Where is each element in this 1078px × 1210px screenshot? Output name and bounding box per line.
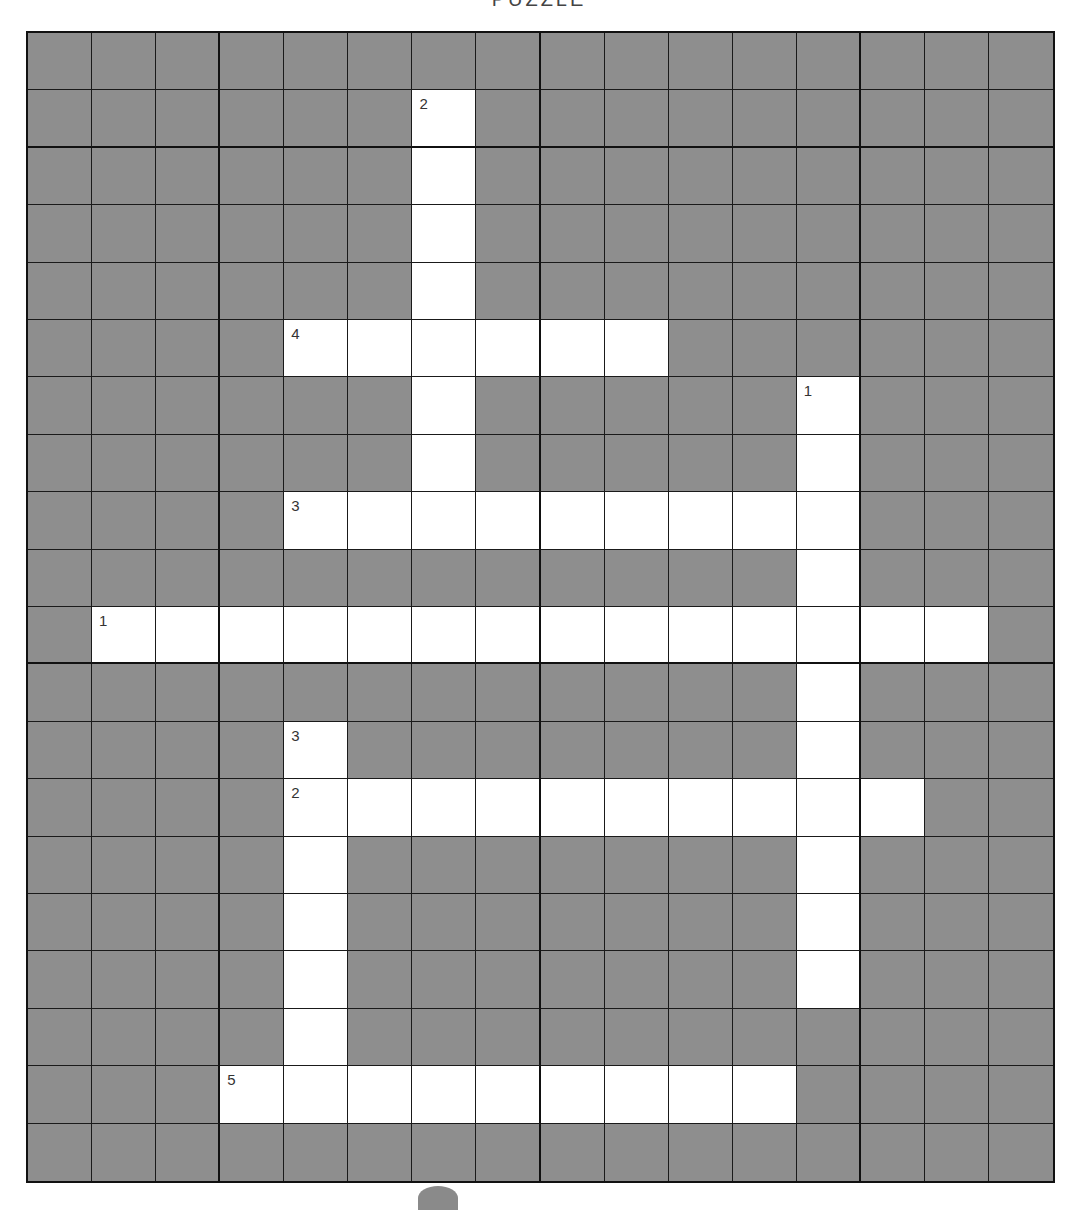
crossword-cell[interactable] xyxy=(348,492,412,549)
blocked-cell xyxy=(28,607,92,664)
crossword-cell[interactable] xyxy=(733,492,797,549)
crossword-cell[interactable] xyxy=(797,722,861,779)
crossword-cell[interactable]: 1 xyxy=(797,377,861,434)
crossword-cell[interactable] xyxy=(412,435,476,492)
crossword-cell[interactable] xyxy=(412,1066,476,1123)
crossword-cell[interactable] xyxy=(797,664,861,721)
blocked-cell xyxy=(925,951,989,1008)
crossword-cell[interactable]: 2 xyxy=(412,90,476,147)
crossword-cell[interactable] xyxy=(412,377,476,434)
crossword-cell[interactable] xyxy=(797,435,861,492)
blocked-cell xyxy=(156,1009,220,1066)
crossword-cell[interactable] xyxy=(348,320,412,377)
blocked-cell xyxy=(605,550,669,607)
crossword-cell[interactable] xyxy=(861,779,925,836)
crossword-cell[interactable] xyxy=(284,894,348,951)
crossword-cell[interactable] xyxy=(797,607,861,664)
blocked-cell xyxy=(348,1009,412,1066)
crossword-cell[interactable] xyxy=(669,607,733,664)
crossword-cell[interactable] xyxy=(220,607,284,664)
crossword-cell[interactable] xyxy=(541,1066,605,1123)
crossword-cell[interactable] xyxy=(797,492,861,549)
crossword-cell[interactable] xyxy=(605,607,669,664)
blocked-cell xyxy=(861,951,925,1008)
crossword-cell[interactable]: 3 xyxy=(284,722,348,779)
crossword-cell[interactable] xyxy=(284,837,348,894)
blocked-cell xyxy=(284,148,348,205)
crossword-cell[interactable] xyxy=(733,607,797,664)
crossword-cell[interactable] xyxy=(412,320,476,377)
blocked-cell xyxy=(861,320,925,377)
blocked-cell xyxy=(733,148,797,205)
blocked-cell xyxy=(92,951,156,1008)
crossword-cell[interactable] xyxy=(476,1066,540,1123)
blocked-cell xyxy=(92,894,156,951)
blocked-cell xyxy=(156,205,220,262)
crossword-cell[interactable] xyxy=(669,492,733,549)
blocked-cell xyxy=(92,377,156,434)
crossword-cell[interactable] xyxy=(412,492,476,549)
crossword-cell[interactable] xyxy=(284,1066,348,1123)
blocked-cell xyxy=(925,33,989,90)
crossword-cell[interactable] xyxy=(797,837,861,894)
crossword-cell[interactable] xyxy=(476,607,540,664)
crossword-cell[interactable] xyxy=(476,320,540,377)
blocked-cell xyxy=(989,492,1053,549)
crossword-cell[interactable] xyxy=(476,492,540,549)
blocked-cell xyxy=(220,550,284,607)
blocked-cell xyxy=(669,320,733,377)
crossword-cell[interactable] xyxy=(861,607,925,664)
blocked-cell xyxy=(28,205,92,262)
crossword-cell[interactable] xyxy=(541,607,605,664)
crossword-cell[interactable] xyxy=(733,779,797,836)
blocked-cell xyxy=(989,435,1053,492)
crossword-cell[interactable]: 3 xyxy=(284,492,348,549)
crossword-cell[interactable] xyxy=(476,779,540,836)
crossword-cell[interactable] xyxy=(669,1066,733,1123)
crossword-cell[interactable] xyxy=(541,320,605,377)
blocked-cell xyxy=(989,1124,1053,1181)
blocked-cell xyxy=(476,550,540,607)
crossword-cell[interactable] xyxy=(733,1066,797,1123)
crossword-cell[interactable] xyxy=(605,779,669,836)
blocked-cell xyxy=(156,377,220,434)
blocked-cell xyxy=(989,205,1053,262)
crossword-cell[interactable] xyxy=(284,607,348,664)
crossword-cell[interactable] xyxy=(412,779,476,836)
crossword-cell[interactable] xyxy=(797,779,861,836)
blocked-cell xyxy=(156,90,220,147)
blocked-cell xyxy=(284,435,348,492)
crossword-cell[interactable] xyxy=(669,779,733,836)
crossword-cell[interactable] xyxy=(797,894,861,951)
crossword-cell[interactable]: 4 xyxy=(284,320,348,377)
clue-number: 3 xyxy=(291,498,299,513)
blocked-cell xyxy=(733,951,797,1008)
crossword-cell[interactable] xyxy=(605,492,669,549)
blocked-cell xyxy=(284,1124,348,1181)
blocked-cell xyxy=(733,320,797,377)
blocked-cell xyxy=(733,550,797,607)
crossword-cell[interactable] xyxy=(348,1066,412,1123)
crossword-cell[interactable] xyxy=(348,607,412,664)
crossword-cell[interactable] xyxy=(412,148,476,205)
crossword-cell[interactable] xyxy=(541,492,605,549)
crossword-cell[interactable] xyxy=(925,607,989,664)
crossword-cell[interactable] xyxy=(412,607,476,664)
crossword-cell[interactable] xyxy=(412,205,476,262)
crossword-cell[interactable] xyxy=(412,263,476,320)
crossword-cell[interactable] xyxy=(605,320,669,377)
crossword-cell[interactable] xyxy=(284,951,348,1008)
crossword-cell[interactable] xyxy=(348,779,412,836)
crossword-cell[interactable] xyxy=(797,951,861,1008)
crossword-cell[interactable] xyxy=(541,779,605,836)
crossword-cell[interactable] xyxy=(156,607,220,664)
crossword-cell[interactable]: 5 xyxy=(220,1066,284,1123)
crossword-cell[interactable]: 1 xyxy=(92,607,156,664)
blocked-cell xyxy=(861,148,925,205)
crossword-cell[interactable] xyxy=(605,1066,669,1123)
blocked-cell xyxy=(156,837,220,894)
crossword-cell[interactable]: 2 xyxy=(284,779,348,836)
crossword-cell[interactable] xyxy=(797,550,861,607)
crossword-cell[interactable] xyxy=(284,1009,348,1066)
blocked-cell xyxy=(220,377,284,434)
